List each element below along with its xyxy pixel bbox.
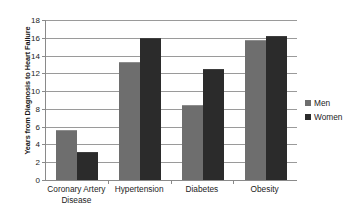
x-axis-label-coronary-artery-disease: Coronary ArteryDisease bbox=[45, 184, 108, 206]
bar-women-coronary-artery-disease bbox=[77, 152, 98, 180]
y-axis-tick-label: 14 bbox=[31, 51, 40, 60]
legend-swatch-women bbox=[305, 114, 311, 120]
x-axis-label-line: Diabetes bbox=[171, 184, 234, 195]
bar-women-diabetes bbox=[203, 69, 224, 180]
bar-men-coronary-artery-disease bbox=[56, 130, 77, 180]
bar-women-hypertension bbox=[140, 38, 161, 180]
y-axis-tick-label: 2 bbox=[36, 158, 40, 167]
x-axis-label-line: Disease bbox=[45, 195, 108, 206]
plot-area: 024681012141618 bbox=[45, 20, 297, 180]
y-axis-tick-label: 0 bbox=[36, 176, 40, 185]
x-axis-label-obesity: Obesity bbox=[233, 184, 296, 195]
y-axis-tick-label: 16 bbox=[31, 33, 40, 42]
gridline bbox=[46, 180, 297, 181]
chart-legend: MenWomen bbox=[305, 96, 363, 124]
x-axis-label-hypertension: Hypertension bbox=[108, 184, 171, 195]
bar-men-diabetes bbox=[182, 105, 203, 180]
bar-chart: Years from Diagnosis to Heart Failure 02… bbox=[0, 0, 363, 223]
bar-women-obesity bbox=[266, 36, 287, 180]
y-axis-tick-label: 4 bbox=[36, 140, 40, 149]
y-axis-tick-label: 12 bbox=[31, 69, 40, 78]
y-axis-tick-label: 6 bbox=[36, 122, 40, 131]
legend-item-men[interactable]: Men bbox=[305, 96, 363, 110]
x-axis-label-diabetes: Diabetes bbox=[171, 184, 234, 195]
y-axis-tick-mark bbox=[42, 180, 46, 181]
y-axis-tick-label: 10 bbox=[31, 87, 40, 96]
x-axis-label-line: Hypertension bbox=[108, 184, 171, 195]
x-axis-label-line: Obesity bbox=[233, 184, 296, 195]
legend-label: Women bbox=[314, 112, 342, 122]
x-axis-label-line: Coronary Artery bbox=[45, 184, 108, 195]
y-axis-tick-label: 18 bbox=[31, 16, 40, 25]
legend-label: Men bbox=[314, 98, 330, 108]
y-axis-tick-label: 8 bbox=[36, 104, 40, 113]
bar-men-obesity bbox=[245, 40, 266, 180]
bars-layer bbox=[46, 20, 297, 180]
bar-men-hypertension bbox=[119, 62, 140, 180]
legend-item-women[interactable]: Women bbox=[305, 110, 363, 124]
legend-swatch-men bbox=[305, 100, 311, 106]
